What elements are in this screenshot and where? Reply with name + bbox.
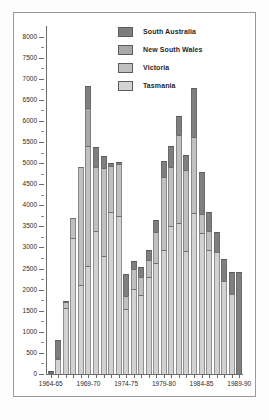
bar-segment-tasmania <box>191 213 197 374</box>
y-tick-minor-mark <box>41 131 44 132</box>
legend-item-south-australia[interactable]: South Australia <box>118 24 203 39</box>
y-tick-mark <box>39 121 44 122</box>
x-axis-line <box>46 374 243 375</box>
bar-segment-south-australia <box>229 272 235 294</box>
bar-segment-victoria <box>191 137 197 213</box>
bar-segment-tasmania <box>101 256 107 374</box>
bar-segment-tasmania <box>93 231 99 374</box>
x-tick-mark <box>119 374 120 378</box>
bar-segment-tasmania <box>199 233 205 374</box>
x-tick-mark <box>186 374 187 378</box>
x-tick-mark <box>88 374 89 378</box>
y-tick-minor-mark <box>41 321 44 322</box>
x-tick-mark <box>171 374 172 378</box>
bar-segment-victoria <box>138 277 144 294</box>
bar-segment-tasmania <box>214 252 220 374</box>
bar-segment-south-australia <box>199 172 205 214</box>
bar-segment-victoria <box>168 167 174 226</box>
x-tick-mark <box>141 374 142 378</box>
bar-segment-victoria <box>183 170 189 251</box>
bar-segment-victoria <box>161 177 167 250</box>
bar-segment-south-australia <box>176 116 182 135</box>
x-tick-mark <box>179 374 180 378</box>
bar-segment-tasmania <box>153 263 159 374</box>
y-tick-mark <box>39 100 44 101</box>
y-tick-label: 2500 <box>23 265 37 272</box>
y-tick-minor-mark <box>41 195 44 196</box>
y-tick-label: 5000 <box>23 160 37 167</box>
bar-segment-tasmania <box>221 281 227 374</box>
y-tick-minor-mark <box>41 300 44 301</box>
bar-segment-victoria <box>131 269 137 288</box>
bar-segment-south-australia <box>85 86 91 108</box>
y-tick-label: 500 <box>26 350 37 357</box>
x-tick-mark <box>73 374 74 378</box>
bar-segment-victoria <box>123 296 129 309</box>
y-tick-label: 1500 <box>23 307 37 314</box>
bar-segment-victoria <box>78 167 84 285</box>
bar-segment-new-south-wales <box>85 108 91 146</box>
y-tick-label: 2000 <box>23 286 37 293</box>
y-tick-minor-mark <box>41 258 44 259</box>
x-tick-mark <box>51 374 52 378</box>
bar-segment-victoria <box>146 260 152 277</box>
bar-segment-tasmania <box>123 309 129 374</box>
bar-segment-victoria <box>85 146 91 267</box>
legend-label: South Australia <box>143 28 196 35</box>
bar-segment-south-australia <box>55 340 61 358</box>
bar-segment-south-australia <box>93 147 99 167</box>
legend-label: New South Wales <box>143 46 203 53</box>
y-tick-label: 4500 <box>23 181 37 188</box>
legend-item-new-south-wales[interactable]: New South Wales <box>118 42 203 57</box>
legend-swatch-icon <box>118 63 133 73</box>
x-tick-mark <box>209 374 210 378</box>
bar-segment-south-australia <box>221 259 227 281</box>
x-tick-label: 1964-65 <box>39 381 63 388</box>
x-tick-mark <box>126 374 127 378</box>
bar-segment-south-australia <box>131 261 137 270</box>
x-tick-mark <box>81 374 82 378</box>
x-tick-mark <box>194 374 195 378</box>
y-tick-label: 6500 <box>23 97 37 104</box>
y-tick-minor-mark <box>41 279 44 280</box>
x-tick-mark <box>156 374 157 378</box>
y-tick-mark <box>39 247 44 248</box>
x-tick-mark <box>111 374 112 378</box>
y-tick-mark <box>39 332 44 333</box>
legend-item-victoria[interactable]: Victoria <box>118 60 203 75</box>
x-tick-mark <box>104 374 105 378</box>
bar-segment-south-australia <box>153 220 159 232</box>
y-tick-mark <box>39 353 44 354</box>
y-tick-minor-mark <box>41 68 44 69</box>
y-tick-label: 8000 <box>23 33 37 40</box>
bar-segment-tasmania <box>161 250 167 374</box>
y-tick-mark <box>39 79 44 80</box>
y-tick-minor-mark <box>41 216 44 217</box>
y-tick-label: 4000 <box>23 202 37 209</box>
y-tick-label: 0 <box>33 371 37 378</box>
bar-segment-south-australia <box>138 267 144 277</box>
bar-segment-tasmania <box>116 216 122 374</box>
bar-segment-victoria <box>206 231 212 251</box>
bar-segment-victoria <box>101 168 107 256</box>
bar-segment-south-australia <box>123 274 129 296</box>
y-tick-minor-mark <box>41 47 44 48</box>
bar-segment-tasmania <box>138 295 144 374</box>
y-tick-label: 3500 <box>23 223 37 230</box>
bar-segment-south-australia <box>63 301 69 302</box>
x-tick-mark <box>58 374 59 378</box>
bar-segment-tasmania <box>229 294 235 374</box>
bar-segment-south-australia <box>161 161 167 177</box>
bar-segment-tasmania <box>168 226 174 374</box>
legend-swatch-icon <box>118 27 133 37</box>
x-tick-mark <box>202 374 203 378</box>
bar-segment-south-australia <box>168 146 174 167</box>
y-tick-minor-mark <box>41 237 44 238</box>
chart-figure: 0500100015002000250030003500400045005000… <box>0 0 269 420</box>
y-tick-mark <box>39 226 44 227</box>
y-tick-minor-mark <box>41 174 44 175</box>
legend-item-tasmania[interactable]: Tasmania <box>118 78 203 93</box>
x-tick-label: 1974-75 <box>114 381 138 388</box>
bar-segment-tasmania <box>131 289 137 374</box>
x-tick-mark <box>239 374 240 378</box>
